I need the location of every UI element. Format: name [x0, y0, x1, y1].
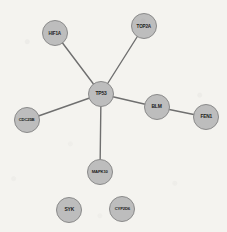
graph-node-hif1a[interactable]: HIF1A — [42, 20, 68, 46]
graph-node-tp53[interactable]: TP53 — [88, 81, 114, 107]
graph-node-label: TP53 — [95, 92, 106, 97]
graph-node-syk[interactable]: SYK — [56, 197, 82, 223]
graph-node-label: HIF1A — [49, 31, 61, 36]
graph-node-top2a[interactable]: TOP2A — [131, 13, 157, 39]
graph-node-label: MAPK10 — [92, 170, 108, 174]
graph-node-cyp2d6[interactable]: CYP2D6 — [109, 196, 135, 222]
graph-node-label: BLM — [152, 105, 162, 110]
graph-node-label: CYP2D6 — [114, 207, 129, 211]
graph-node-cdc25b[interactable]: CDC25B — [14, 107, 40, 133]
graph-node-blm[interactable]: BLM — [144, 94, 170, 120]
graph-node-label: FEN1 — [200, 115, 211, 120]
graph-node-label: TOP2A — [137, 24, 151, 29]
graph-node-mapk10[interactable]: MAPK10 — [87, 159, 113, 185]
graph-node-label: CDC25B — [19, 118, 35, 122]
graph-node-fen1[interactable]: FEN1 — [193, 104, 219, 130]
network-graph: TP53HIF1ATOP2ACDC25BBLMFEN1MAPK10SYKCYP2… — [0, 0, 227, 232]
graph-node-label: SYK — [64, 208, 74, 213]
